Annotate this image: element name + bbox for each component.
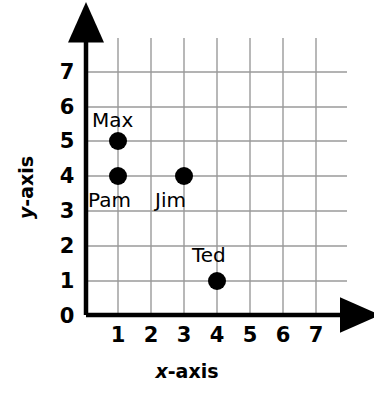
coordinate-plane-chart: 7 6 5 4 3 2 1 0 1 2 3 4 5 6 7 Max Pam Ji…: [0, 0, 374, 403]
y-axis-title: y-axis: [17, 138, 36, 238]
data-point-jim: [175, 167, 193, 185]
x-axis-title: x-axis: [0, 362, 374, 381]
y-axis-title-suffix: -axis: [15, 156, 37, 207]
x-tick-6: 6: [272, 325, 294, 346]
x-tick-7: 7: [305, 325, 327, 346]
x-axis-title-suffix: -axis: [168, 360, 219, 382]
x-tick-4: 4: [206, 325, 228, 346]
point-label-jim: Jim: [155, 190, 186, 210]
y-tick-5: 5: [56, 131, 78, 152]
point-label-pam: Pam: [88, 190, 131, 210]
x-tick-1: 1: [107, 325, 129, 346]
data-point-pam: [109, 167, 127, 185]
y-tick-2: 2: [56, 236, 78, 257]
point-label-max: Max: [92, 110, 133, 130]
x-tick-3: 3: [173, 325, 195, 346]
y-axis-title-prefix: y: [15, 207, 37, 219]
y-tick-1: 1: [56, 271, 78, 292]
x-tick-2: 2: [140, 325, 162, 346]
data-point-max: [109, 132, 127, 150]
x-tick-5: 5: [239, 325, 261, 346]
data-point-ted: [208, 272, 226, 290]
y-tick-0: 0: [56, 306, 78, 327]
y-tick-7: 7: [56, 62, 78, 83]
y-tick-4: 4: [56, 166, 78, 187]
y-tick-3: 3: [56, 201, 78, 222]
point-label-ted: Ted: [192, 245, 226, 265]
x-axis-title-prefix: x: [155, 360, 167, 382]
y-tick-6: 6: [56, 97, 78, 118]
